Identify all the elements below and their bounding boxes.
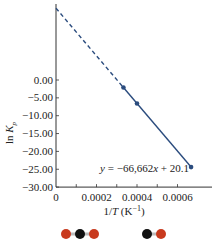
- x-tick-label: 0.0002: [81, 191, 111, 203]
- carbon-atom: [142, 229, 152, 239]
- x-axis-label: 1/T (K−1): [103, 204, 145, 218]
- oxygen-atom: [61, 229, 71, 239]
- y-tick-label: −10.00: [22, 109, 53, 121]
- y-tick-label: −5.00: [28, 91, 54, 103]
- carbon-atom: [75, 229, 85, 239]
- y-tick-label: −30.00: [22, 181, 53, 193]
- y-axis-label: ln Kp: [3, 121, 18, 144]
- molecules: [61, 229, 166, 239]
- co2-molecule: [61, 229, 99, 239]
- x-tick-label: 0.0006: [162, 191, 193, 203]
- oxygen-atom: [156, 229, 166, 239]
- y-tick-label: −25.00: [22, 163, 53, 175]
- x-tick-label: 0.0004: [122, 191, 153, 203]
- y-ticks: 0.00−5.00−10.00−15.00−20.00−25.00−30.00: [22, 74, 59, 193]
- x-tick-label: 0: [53, 191, 59, 203]
- fit-line: [123, 87, 191, 166]
- data-point: [135, 101, 140, 106]
- data-point: [189, 165, 194, 170]
- fit-equation: y = −66,662x + 20.1: [99, 162, 189, 174]
- axes: [56, 4, 212, 187]
- y-tick-label: 0.00: [34, 74, 54, 86]
- co-molecule: [142, 229, 166, 239]
- y-tick-label: −15.00: [22, 127, 53, 139]
- y-tick-label: −20.00: [22, 145, 53, 157]
- extrapolated-fit-line: [56, 8, 123, 87]
- oxygen-atom: [89, 229, 99, 239]
- chart: 0.00−5.00−10.00−15.00−20.00−25.00−30.00 …: [0, 0, 218, 239]
- data-point: [121, 85, 126, 90]
